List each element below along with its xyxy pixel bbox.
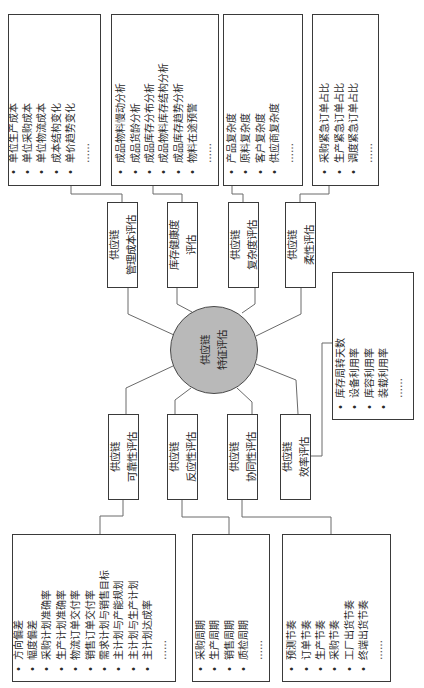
synergy-metrics-list: •预测节奏 •订单节奏 •生产节奏 •采购节奏 •工厂出货节奏 •终端出货节奏 … [284,600,385,672]
list-item: •销售周期 [223,620,237,672]
list-item: •采购节奏 [327,600,341,672]
list-item: •产品复杂度 [225,103,239,175]
inventory-eval-box: 库存健康度 评估 [167,202,198,288]
efficiency-metrics-list: •库存周转天数 •设备利用率 •库容利用率 •装载利用率 …… [334,338,406,410]
reliability-metrics-list: •方向偏差 •幅度偏差 •采购计划准确率 •生产计划准确率 •物流订单交付率 •… [12,570,170,672]
list-item: •预测节奏 [284,600,298,672]
list-item: …… [156,570,170,672]
list-item: …… [283,103,297,175]
eval-label: 供应链 [285,204,301,286]
list-item: •主计划达成率 [141,570,155,672]
flexibility-eval-box: 供应链 柔性评估 [285,202,316,288]
eval-label: 管理成本评估 [123,204,139,286]
list-item: •终端出货节奏 [356,600,370,672]
list-item: …… [361,83,375,175]
reliability-metrics-box: •方向偏差 •幅度偏差 •采购计划准确率 •生产计划准确率 •物流订单交付率 •… [12,534,176,682]
list-item: •单价趋势变化 [64,103,78,175]
list-item: •物流订单交付率 [69,570,83,672]
eval-label: 供应链 [227,416,243,498]
list-item: •方向偏差 [12,570,26,672]
list-item: •原料复杂度 [239,103,253,175]
list-item: …… [201,63,215,175]
list-item: •采购周期 [194,620,208,672]
reliability-eval-box: 供应链 可靠性评估 [108,414,139,500]
list-item: •单位采购成本 [20,103,34,175]
eval-label: 供应链 [167,416,183,498]
list-item: •供应商复杂度 [268,103,282,175]
list-item: •质检周期 [237,620,251,672]
eval-label: 供应链 [108,416,124,498]
eval-label: 可靠性评估 [124,416,140,498]
list-item: •成品库存分布分析 [143,63,157,175]
center-label: 供应链 [197,310,214,390]
list-item: •库容利用率 [363,338,377,410]
list-item: •生产周期 [208,620,222,672]
list-item: •库存周转天数 [334,338,348,410]
list-item: •生产计划准确率 [55,570,69,672]
list-item: •生产紧急订单占比 [332,83,346,175]
responsiveness-metrics-list: •采购周期 •生产周期 •销售周期 •质检周期 …… [194,620,266,672]
cost-eval-box: 供应链 管理成本评估 [107,202,138,288]
list-item: •客户复杂度 [254,103,268,175]
eval-label: 效率评估 [296,416,312,498]
flexibility-metrics-list: •采购紧急订单占比 •生产紧急订单占比 •调度紧急订单占比 …… [317,83,375,175]
list-item: •装载利用率 [377,338,391,410]
inventory-metrics-list: •成品物料慢动分析 •成品货龄分析 •成品库存分布分析 •成品物料库存结构分析 … [114,63,215,175]
responsiveness-metrics-box: •采购周期 •生产周期 •销售周期 •质检周期 …… [192,534,270,682]
list-item: •销售订单交付率 [84,570,98,672]
eval-label: 协同性评估 [243,416,259,498]
list-item: •成品库存趋势分析 [172,63,186,175]
list-item: •采购计划准确率 [40,570,54,672]
eval-label: 供应链 [228,204,244,286]
synergy-metrics-box: •预测节奏 •订单节奏 •生产节奏 •采购节奏 •工厂出货节奏 •终端出货节奏 … [282,534,391,682]
list-item: •主计划与生产计划 [127,570,141,672]
list-item: •设备利用率 [348,338,362,410]
flexibility-metrics-box: •采购紧急订单占比 •生产紧急订单占比 •调度紧急订单占比 …… [312,14,379,186]
eval-label: 柔性评估 [301,204,317,286]
list-item: •单位物流成本 [35,103,49,175]
list-item: •成本结构变化 [49,103,63,175]
complexity-metrics-list: •产品复杂度 •原料复杂度 •客户复杂度 •供应商复杂度 …… [225,103,297,175]
list-item: …… [392,338,406,410]
inventory-metrics-box: •成品物料慢动分析 •成品货龄分析 •成品库存分布分析 •成品物料库存结构分析 … [111,14,219,186]
list-item: •成品物料慢动分析 [114,63,128,175]
list-item: …… [78,103,92,175]
cost-metrics-box: •单位生产成本 •单位采购成本 •单位物流成本 •成本结构变化 •单价趋势变化 … [8,14,101,186]
eval-label: 评估 [183,204,199,286]
list-item: •生产节奏 [313,600,327,672]
cost-metrics-list: •单位生产成本 •单位采购成本 •单位物流成本 •成本结构变化 •单价趋势变化 … [8,103,93,175]
list-item: •主计划与产能规划 [112,570,126,672]
list-item: •需求计划与销售目标 [98,570,112,672]
efficiency-eval-box: 供应链 效率评估 [280,414,311,500]
list-item: •物料在途预警 [186,63,200,175]
list-item: •成品货龄分析 [129,63,143,175]
responsiveness-eval-box: 供应链 反应性评估 [167,414,198,500]
list-item: •调度紧急订单占比 [346,83,360,175]
eval-label: 供应链 [107,204,123,286]
list-item: •成品物料库存结构分析 [157,63,171,175]
eval-label: 复杂度评估 [244,204,260,286]
list-item: •单位生产成本 [8,103,20,175]
list-item: •幅度偏差 [26,570,40,672]
center-label: 特征评估 [214,310,231,390]
list-item: •采购紧急订单占比 [317,83,331,175]
complexity-eval-box: 供应链 复杂度评估 [228,202,259,288]
eval-label: 反应性评估 [183,416,199,498]
list-item: •工厂出货节奏 [342,600,356,672]
complexity-metrics-box: •产品复杂度 •原料复杂度 •客户复杂度 •供应商复杂度 …… [223,14,303,186]
list-item: …… [252,620,266,672]
list-item: …… [371,600,385,672]
center-node: 供应链 特征评估 [170,306,258,394]
eval-label: 供应链 [280,416,296,498]
efficiency-metrics-box: •库存周转天数 •设备利用率 •库容利用率 •装载利用率 …… [332,272,414,420]
eval-label: 库存健康度 [167,204,183,286]
synergy-eval-box: 供应链 协同性评估 [227,414,258,500]
list-item: •订单节奏 [299,600,313,672]
